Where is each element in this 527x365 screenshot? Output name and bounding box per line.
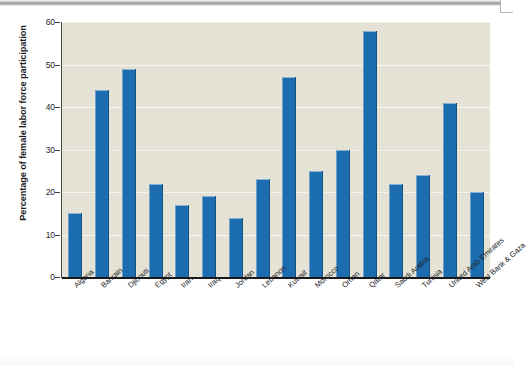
x-axis-tick-label: Egypt xyxy=(153,270,173,290)
x-axis-tick-label: Tunisia xyxy=(420,267,444,290)
x-axis-tick-label: West Bank & Gaza xyxy=(474,241,527,290)
x-axis-tick-label: Morocco xyxy=(313,264,340,290)
x-axis-tick-label: Lebanon xyxy=(260,263,288,289)
x-axis-tick-label: Iran xyxy=(179,274,195,289)
x-axis-tick-label: Bahrain xyxy=(99,266,124,290)
x-axis-tick-label: Jordan xyxy=(233,268,256,290)
x-axis-tick-label: Qatar xyxy=(367,270,387,289)
x-axis-tick-label: Iraq xyxy=(206,274,222,289)
x-axis-tick-label: Kuwait xyxy=(286,268,309,290)
x-axis-tick-label: Algeria xyxy=(72,267,95,289)
x-axis-tick-label: Djibouti xyxy=(126,266,151,289)
x-axis-tick-label: Oman xyxy=(340,269,361,289)
